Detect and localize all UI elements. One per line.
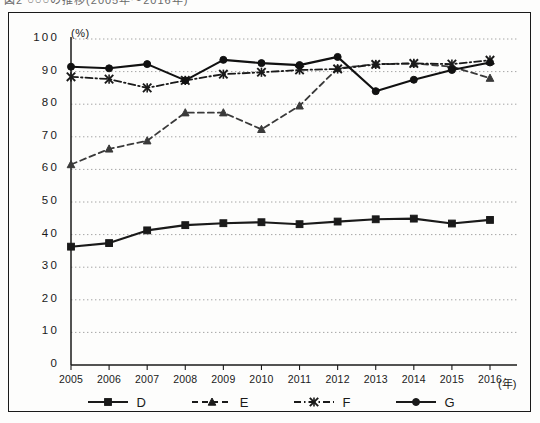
series-line-E: [71, 63, 490, 164]
y-tick-50: 50: [17, 194, 59, 206]
data-point-D-2015: [449, 220, 456, 227]
x-tick-2011: 2011: [279, 373, 321, 385]
data-point-D-2008: [182, 222, 189, 229]
legend-swatch-square-icon: [86, 395, 130, 409]
x-tick-2006: 2006: [88, 373, 130, 385]
data-point-D-2013: [372, 216, 379, 223]
x-tick-2016: 2016: [469, 373, 511, 385]
legend-item-F[interactable]: F: [292, 395, 350, 410]
legend-item-D[interactable]: D: [86, 395, 145, 410]
data-point-G-2015: [448, 66, 455, 73]
series-line-G: [71, 57, 490, 91]
data-point-G-2014: [410, 76, 417, 83]
data-point-G-2005: [68, 63, 75, 70]
data-point-D-2016: [487, 217, 494, 224]
y-tick-100: 100: [17, 31, 59, 43]
chart-legend: DEFG: [9, 391, 532, 413]
data-point-G-2010: [258, 60, 265, 67]
series-line-D: [71, 219, 490, 247]
data-point-G-2013: [372, 88, 379, 95]
data-point-D-2005: [68, 243, 75, 250]
y-tick-30: 30: [17, 259, 59, 271]
chart-frame: (%) (年) 1009080706050403020100 200520062…: [8, 12, 531, 412]
data-point-D-2007: [144, 227, 151, 234]
cut-off-caption: 図2 ○○○の推移(2005年〜2016年): [0, 0, 540, 9]
x-tick-2007: 2007: [126, 373, 168, 385]
data-point-G-2016: [487, 59, 494, 66]
x-tick-2008: 2008: [164, 373, 206, 385]
x-tick-2005: 2005: [50, 373, 92, 385]
legend-label-D: D: [136, 395, 145, 410]
legend-label-F: F: [342, 395, 350, 410]
chart-screenshot: 図2 ○○○の推移(2005年〜2016年) (%) (年) 100908070…: [0, 0, 540, 423]
cut-off-caption-text: 図2 ○○○の推移(2005年〜2016年): [4, 0, 188, 7]
legend-swatch-cross-icon: [292, 395, 336, 409]
data-point-D-2009: [220, 220, 227, 227]
data-point-D-2014: [410, 215, 417, 222]
legend-label-G: G: [444, 395, 454, 410]
data-point-G-2006: [106, 65, 113, 72]
data-point-D-2010: [258, 219, 265, 226]
data-point-G-2009: [220, 56, 227, 63]
x-tick-2013: 2013: [355, 373, 397, 385]
data-point-D-2012: [334, 218, 341, 225]
data-point-E-2016: [486, 74, 494, 81]
legend-swatch-circle-icon: [394, 395, 438, 409]
y-tick-70: 70: [17, 129, 59, 141]
y-tick-60: 60: [17, 161, 59, 173]
data-point-G-2011: [296, 62, 303, 69]
y-tick-80: 80: [17, 96, 59, 108]
legend-label-E: E: [240, 395, 249, 410]
data-point-G-2012: [334, 53, 341, 60]
plot-area: (%) (年) 1009080706050403020100 200520062…: [9, 13, 532, 413]
data-point-G-2007: [144, 61, 151, 68]
line-chart-svg: [9, 13, 532, 413]
data-point-D-2011: [296, 221, 303, 228]
y-tick-20: 20: [17, 292, 59, 304]
y-tick-0: 0: [17, 357, 59, 369]
x-tick-2009: 2009: [202, 373, 244, 385]
legend-item-E[interactable]: E: [190, 395, 249, 410]
x-tick-2015: 2015: [431, 373, 473, 385]
data-point-G-2008: [182, 77, 189, 84]
y-tick-10: 10: [17, 324, 59, 336]
legend-item-G[interactable]: G: [394, 395, 454, 410]
legend-swatch-triangle-icon: [190, 395, 234, 409]
data-point-D-2006: [106, 240, 113, 247]
y-tick-90: 90: [17, 64, 59, 76]
x-tick-2014: 2014: [393, 373, 435, 385]
x-tick-2012: 2012: [317, 373, 359, 385]
x-tick-2010: 2010: [240, 373, 282, 385]
y-tick-40: 40: [17, 227, 59, 239]
